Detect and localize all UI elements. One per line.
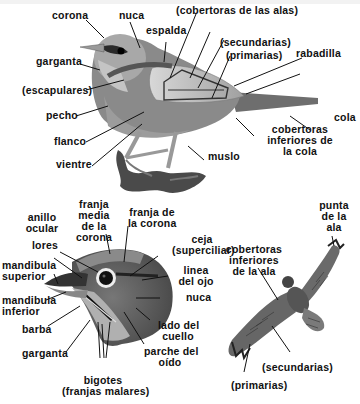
label-nuca: nuca xyxy=(119,10,144,21)
label-vientre: vientre xyxy=(56,159,92,170)
label-punta-de-la-ala: punta de la ala xyxy=(316,200,352,233)
label-corona: corona xyxy=(52,10,88,21)
head-closeup-illustration xyxy=(44,226,173,358)
label-secundarias: (secundarias) xyxy=(220,37,291,48)
label-ceja-superciliar: ceja (superciliar) xyxy=(172,234,232,256)
label-garganta-head: garganta xyxy=(22,348,68,359)
label-muslo: muslo xyxy=(208,151,240,162)
label-primarias: (primarias) xyxy=(226,50,282,61)
label-franja-corona: franja de la corona xyxy=(128,207,176,229)
label-parche-del-oido: parche del oído xyxy=(144,346,196,368)
label-flanco: flanco xyxy=(54,136,86,147)
label-rabadilla: rabadilla xyxy=(296,48,341,59)
label-anillo-ocular: anillo ocular xyxy=(20,212,64,234)
label-secundarias-hawk: (secundarias) xyxy=(262,362,333,373)
label-lado-del-cuello: lado del cuello xyxy=(158,320,198,342)
label-pecho: pecho xyxy=(46,110,78,121)
label-cola: cola xyxy=(334,112,356,123)
label-cobertoras-alas: (cobertoras de las alas) xyxy=(176,5,298,16)
label-mandibula-superior: mandibula superior xyxy=(2,260,56,282)
label-barba: barba xyxy=(22,324,52,335)
label-mandibula-inferior: mandibula inferior xyxy=(2,295,56,317)
label-cobertoras-cola: cobertoras inferiores de la cola xyxy=(258,124,342,157)
label-escapulares: (escapulares) xyxy=(22,85,92,96)
label-espalda: espalda xyxy=(146,25,187,36)
label-linea-del-ojo: linea del ojo xyxy=(176,265,216,287)
bird-topography-diagram: corona nuca (cobertoras de las alas) esp… xyxy=(0,0,360,404)
label-franja-media-corona: franja media de la corona xyxy=(74,199,114,243)
label-nuca-head: nuca xyxy=(186,292,211,303)
label-garganta: garganta xyxy=(36,56,82,67)
label-cobertoras-inferiores-ala: cobertoras inferiores de la ala xyxy=(224,244,284,277)
label-bigotes-franjas-malares: bigotes (franjas malares) xyxy=(62,375,144,397)
label-lores: lores xyxy=(32,240,58,251)
label-primarias-hawk: (primarias) xyxy=(231,380,287,391)
